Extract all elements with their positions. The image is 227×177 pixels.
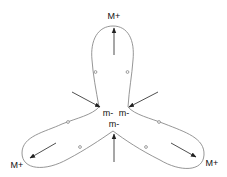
point-marker bbox=[79, 146, 82, 149]
point-marker bbox=[145, 146, 148, 149]
point-marker bbox=[94, 71, 97, 74]
arrow-to-left-min-icon bbox=[72, 92, 100, 107]
label-top-max: M+ bbox=[108, 11, 121, 21]
point-marker bbox=[158, 121, 161, 124]
label-right-min: m- bbox=[119, 108, 130, 118]
arrow-bottom-right-icon bbox=[171, 143, 196, 157]
point-marker bbox=[126, 71, 129, 74]
arrows bbox=[30, 28, 196, 162]
three-lobe-curve-diagram: M+ m- m- m- M+ M+ bbox=[0, 0, 227, 177]
label-left-min: m- bbox=[103, 108, 114, 118]
point-marker bbox=[67, 121, 70, 124]
arrow-bottom-left-icon bbox=[30, 143, 56, 158]
arrow-to-right-min-icon bbox=[129, 92, 158, 107]
label-bottom-min: m- bbox=[109, 119, 120, 129]
label-bottom-left-max: M+ bbox=[11, 160, 24, 170]
curve-point-markers bbox=[67, 71, 161, 149]
label-bottom-right-max: M+ bbox=[206, 158, 219, 168]
